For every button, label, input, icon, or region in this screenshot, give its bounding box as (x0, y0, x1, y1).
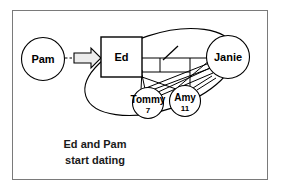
node-tommy-age: 7 (146, 106, 151, 115)
node-janie-label: Janie (214, 51, 242, 63)
node-ed-label: Ed (114, 51, 128, 63)
caption-line-1: Ed and Pam (64, 138, 127, 150)
node-pam-label: Pam (31, 53, 54, 65)
caption-line-2: start dating (65, 154, 125, 166)
node-tommy-label: Tommy (131, 94, 166, 105)
node-amy-label: Amy (174, 92, 196, 103)
edge-cross-a (146, 62, 212, 88)
diagram-canvas: Pam Ed Janie Tommy 7 Amy 11 Ed and Pam s… (0, 0, 281, 192)
diagram-graphics: Pam Ed Janie Tommy 7 Amy 11 Ed and Pam s… (0, 0, 281, 192)
node-amy-age: 11 (181, 104, 190, 113)
